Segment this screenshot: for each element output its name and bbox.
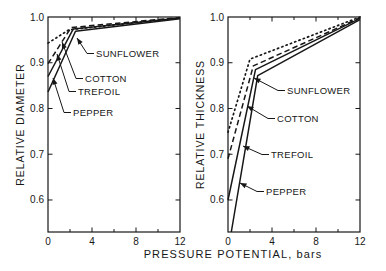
left-xtick-label: 0 bbox=[45, 236, 51, 247]
dual-line-chart-canvas: 1.00.90.80.70.604812RELATIVE DIAMETERSUN… bbox=[0, 0, 386, 271]
right-ytick-label: 1.0 bbox=[210, 12, 224, 23]
x-axis-label: PRESSURE POTENTIAL, bars bbox=[144, 248, 323, 260]
right-y-axis-title: RELATIVE THICKNESS bbox=[194, 60, 206, 189]
left-pepper-label: PEPPER bbox=[73, 107, 113, 118]
left-ytick-label: 1.0 bbox=[30, 12, 44, 23]
right-ytick-label: 0.8 bbox=[210, 103, 224, 114]
right-trefoil-label: TREFOIL bbox=[271, 149, 313, 160]
left-cotton-label: COTTON bbox=[85, 73, 127, 84]
left-trefoil-label: TREFOIL bbox=[78, 86, 120, 97]
panel-relative-diameter: 1.00.90.80.70.604812RELATIVE DIAMETERSUN… bbox=[14, 12, 186, 248]
left-xtick-label: 12 bbox=[174, 236, 186, 247]
left-ytick-label: 0.7 bbox=[30, 149, 44, 160]
right-trefoil-arrowhead bbox=[243, 146, 250, 151]
left-sunflower-label: SUNFLOWER bbox=[96, 48, 159, 59]
right-ytick-label: 0.7 bbox=[210, 149, 224, 160]
right-ytick-label: 0.9 bbox=[210, 57, 224, 68]
left-ytick-label: 0.6 bbox=[30, 194, 44, 205]
right-xtick-label: 8 bbox=[313, 236, 319, 247]
right-pepper-arrowhead bbox=[240, 183, 247, 188]
left-ytick-label: 0.8 bbox=[30, 103, 44, 114]
left-ytick-label: 0.9 bbox=[30, 57, 44, 68]
figure-container: 1.00.90.80.70.604812RELATIVE DIAMETERSUN… bbox=[0, 0, 386, 271]
left-y-axis-title: RELATIVE DIAMETER bbox=[14, 63, 26, 185]
panel-relative-thickness: 1.00.90.80.70.604812RELATIVE THICKNESSSU… bbox=[194, 12, 366, 248]
right-xtick-label: 4 bbox=[269, 236, 275, 247]
right-sunflower-arrowhead bbox=[254, 78, 261, 83]
right-ytick-label: 0.6 bbox=[210, 194, 224, 205]
right-cotton-label: COTTON bbox=[277, 113, 319, 124]
right-xtick-label: 0 bbox=[225, 236, 231, 247]
right-xtick-label: 12 bbox=[354, 236, 366, 247]
left-xtick-label: 8 bbox=[133, 236, 139, 247]
left-xtick-label: 4 bbox=[89, 236, 95, 247]
right-trefoil-line bbox=[228, 18, 360, 200]
right-pepper-label: PEPPER bbox=[266, 186, 306, 197]
left-pepper-arrowhead bbox=[52, 78, 57, 85]
left-sunflower-arrowhead bbox=[77, 38, 83, 45]
right-axes-box bbox=[228, 17, 360, 232]
right-pepper-line bbox=[231, 20, 360, 232]
right-sunflower-label: SUNFLOWER bbox=[287, 85, 350, 96]
